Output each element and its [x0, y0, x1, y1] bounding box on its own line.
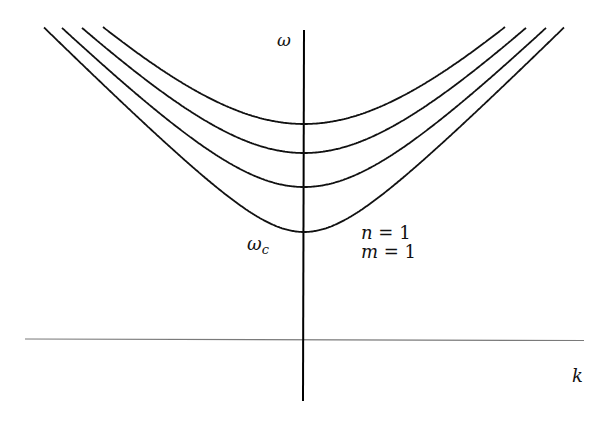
omega-symbol: ω	[247, 233, 262, 254]
m-symbol: m	[361, 241, 378, 262]
dispersion-diagram: ω k ωc n = 1 m = 1	[0, 0, 611, 421]
cutoff-frequency-label: ωc	[247, 233, 270, 257]
cutoff-subscript: c	[262, 242, 270, 257]
omega-axis-label: ω	[277, 30, 291, 50]
omega-axis	[303, 30, 304, 401]
n-symbol: n	[361, 222, 373, 243]
mode-index-n-label: n = 1	[361, 222, 411, 243]
n-value: 1	[399, 222, 410, 243]
mode-index-m-label: m = 1	[361, 241, 416, 262]
k-axis	[25, 339, 584, 341]
equals-sign: =	[378, 241, 405, 262]
equals-sign: =	[373, 222, 400, 243]
k-axis-label: k	[572, 365, 583, 386]
m-value: 1	[405, 241, 416, 262]
